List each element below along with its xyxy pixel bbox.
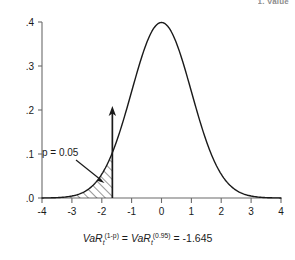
x-tick-label: 0 [159, 206, 165, 217]
y-tick-label: .3 [26, 61, 35, 72]
p-value-label: p = 0.05 [42, 147, 79, 158]
p-value-annotation: p = 0.05 [42, 147, 105, 183]
y-axis [38, 22, 42, 198]
caption-exp-right: (0.95) [153, 232, 171, 239]
caption-equals-1: = [122, 232, 128, 244]
figure-container: 1. Value .4 .3 .2 .1 .0 [0, 0, 295, 260]
x-axis-tick-labels: -4 -3 -2 -1 0 1 2 3 4 [38, 206, 285, 217]
x-tick-label: 4 [278, 206, 284, 217]
x-tick-label: -1 [127, 206, 136, 217]
x-tick-label: -4 [38, 206, 47, 217]
caption-equals-2: = [174, 232, 180, 244]
caption-sub-right: t [151, 239, 153, 246]
x-axis [42, 198, 281, 203]
normal-distribution-chart: .4 .3 .2 .1 .0 -4 -3 -2 -1 0 1 2 3 [0, 0, 295, 232]
x-tick-label: 3 [248, 206, 254, 217]
caption-exp-left: (1-p) [105, 232, 119, 239]
caption-value: -1.645 [183, 232, 213, 244]
figure-caption: VaRt(1-p) = VaRt(0.95) = -1.645 [0, 232, 295, 244]
y-axis-tick-labels: .4 .3 .2 .1 .0 [26, 17, 35, 204]
density-curve [42, 22, 281, 197]
x-tick-label: 1 [189, 206, 195, 217]
y-tick-label: .1 [26, 149, 35, 160]
y-tick-label: .4 [26, 17, 35, 28]
y-tick-label: .0 [26, 193, 35, 204]
x-tick-label: -3 [67, 206, 76, 217]
caption-var-right: VaR [131, 232, 151, 244]
y-tick-label: .2 [26, 105, 35, 116]
x-tick-label: -2 [97, 206, 106, 217]
caption-sub-left: t [103, 239, 105, 246]
x-tick-label: 2 [218, 206, 224, 217]
caption-var-left: VaR [83, 232, 103, 244]
